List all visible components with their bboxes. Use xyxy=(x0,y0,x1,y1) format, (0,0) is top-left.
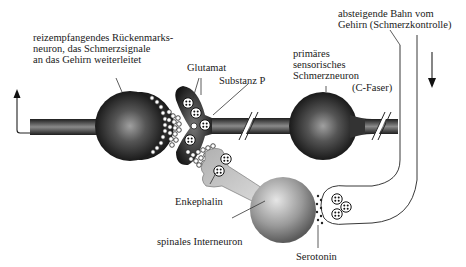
label-glutamate: Glutamat xyxy=(187,62,226,73)
label-serotonin: Serotonin xyxy=(296,251,337,262)
label-enkephalin: Enkephalin xyxy=(175,196,223,207)
label-c-fiber: (C-Faser) xyxy=(352,82,392,93)
glutamate-vesicle xyxy=(191,123,197,129)
label-substance-p: Substanz P xyxy=(219,75,265,86)
dorsal-horn-neuron-soma xyxy=(95,91,174,161)
label-interneuron: spinales Interneuron xyxy=(157,236,242,247)
c-fiber-axon-end xyxy=(386,119,398,134)
primary-neuron-soma xyxy=(289,92,372,160)
ascending-arrow-icon xyxy=(14,89,31,133)
label-dorsal-horn-neuron: reizempfangendes Rückenmarks- neuron, da… xyxy=(33,32,173,65)
descending-arrow-icon xyxy=(428,52,436,88)
label-primary-neuron: primäres sensorisches Schmerzneuron xyxy=(293,48,359,81)
label-descending-path: absteigende Bahn vom Gehirn (Schmerzkont… xyxy=(338,8,451,30)
